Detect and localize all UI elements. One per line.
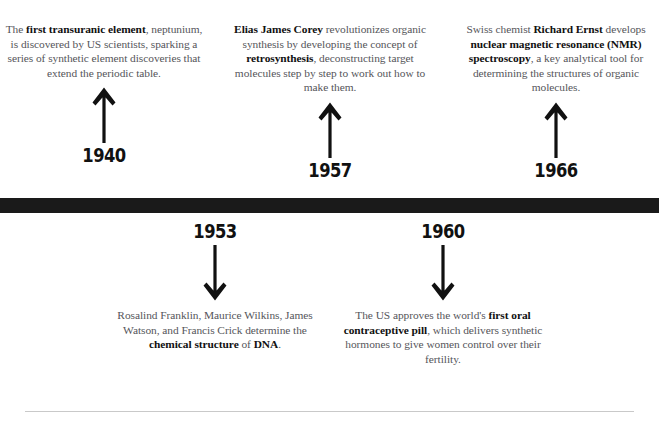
timeline-axis-bar bbox=[0, 198, 659, 213]
arrow-up-icon bbox=[227, 101, 433, 159]
timeline-event-1960: 1960 The US approves the world's first o… bbox=[340, 222, 546, 366]
timeline-event-1966: Swiss chemist Richard Ernst develops nuc… bbox=[453, 22, 659, 180]
event-description-1966: Swiss chemist Richard Ernst develops nuc… bbox=[453, 22, 659, 95]
arrow-down-icon bbox=[112, 244, 318, 302]
year-label-1940: 1940 bbox=[15, 146, 192, 165]
timeline-event-1940: The first transuranic element, neptunium… bbox=[1, 22, 207, 165]
year-label-1953: 1953 bbox=[126, 222, 303, 241]
arrow-up-icon bbox=[1, 86, 207, 144]
footer-divider bbox=[25, 411, 634, 412]
event-description-1953: Rosalind Franklin, Maurice Wilkins, Jame… bbox=[112, 308, 318, 352]
arrow-up-icon bbox=[453, 101, 659, 159]
timeline-event-1953: 1953 Rosalind Franklin, Maurice Wilkins,… bbox=[112, 222, 318, 352]
arrow-down-icon bbox=[340, 244, 546, 302]
year-label-1957: 1957 bbox=[241, 161, 418, 180]
event-description-1960: The US approves the world's first oral c… bbox=[340, 308, 546, 366]
year-label-1966: 1966 bbox=[467, 161, 644, 180]
event-description-1940: The first transuranic element, neptunium… bbox=[1, 22, 207, 80]
year-label-1960: 1960 bbox=[354, 222, 531, 241]
timeline-event-1957: Elias James Corey revolutionizes organic… bbox=[227, 22, 433, 180]
timeline-infographic: The first transuranic element, neptunium… bbox=[0, 0, 659, 427]
event-description-1957: Elias James Corey revolutionizes organic… bbox=[227, 22, 433, 95]
